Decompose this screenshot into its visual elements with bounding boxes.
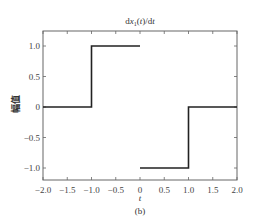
axis-ticks: −2.0−1.5−1.0−0.500.51.01.52.01.00.50−0.5… xyxy=(24,31,243,195)
x-tick-label: −1.5 xyxy=(59,185,76,195)
x-tick-label: −0.5 xyxy=(108,185,125,195)
y-tick-label: −0.5 xyxy=(24,133,41,143)
x-tick-label: 1.5 xyxy=(207,185,219,195)
y-axis-label: 幅值 xyxy=(10,95,21,113)
y-tick-label: −1.0 xyxy=(24,163,41,173)
series-line xyxy=(43,46,140,107)
figure-caption: (b) xyxy=(135,206,146,216)
chart: −2.0−1.5−1.0−0.500.51.01.52.01.00.50−0.5… xyxy=(0,0,258,223)
chart-title: dx1(t)/dt xyxy=(125,16,155,27)
y-tick-label: 0.5 xyxy=(29,72,41,82)
x-tick-label: 0.5 xyxy=(159,185,171,195)
series-line xyxy=(140,107,237,168)
plot-area xyxy=(43,31,237,180)
y-tick-label: 1.0 xyxy=(29,41,41,51)
x-tick-label: 1.0 xyxy=(183,185,195,195)
x-tick-label: −2.0 xyxy=(35,185,52,195)
data-series xyxy=(43,46,237,168)
x-tick-label: −1.0 xyxy=(83,185,100,195)
x-tick-label: 2.0 xyxy=(231,185,243,195)
y-tick-label: 0 xyxy=(36,102,41,112)
